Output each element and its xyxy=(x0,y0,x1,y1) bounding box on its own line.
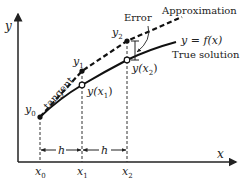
tick-x1: x1 xyxy=(77,165,88,180)
error-label: Error xyxy=(124,12,152,23)
point-y2 xyxy=(124,38,129,43)
label-y2: y2 xyxy=(111,26,123,41)
point-true-x1 xyxy=(79,82,85,88)
label-y-of-x2: y(x2) xyxy=(131,62,158,77)
true-equation-label: y = f(x) xyxy=(180,34,222,47)
step-h-label-2: h xyxy=(101,144,108,157)
y-axis-label: y xyxy=(4,19,12,33)
step-h-label-1: h xyxy=(58,144,65,157)
label-y1: y1 xyxy=(72,55,84,70)
point-y0 xyxy=(37,114,42,119)
tick-x2: x2 xyxy=(122,165,133,180)
x-axis-label: x xyxy=(217,147,224,161)
label-y-of-x1: y(x1) xyxy=(86,85,113,100)
approximation-line xyxy=(40,17,182,117)
tick-x0: x0 xyxy=(35,165,46,180)
error-pointer xyxy=(137,26,149,52)
point-true-x2 xyxy=(124,57,130,63)
approximation-label: Approximation xyxy=(161,5,237,16)
label-y0: y0 xyxy=(24,103,36,118)
euler-method-diagram: y x h h x0 x1 x2 y0 y1 y2 y(x1) y(x2) ta… xyxy=(0,0,242,180)
true-solution-label: True solution xyxy=(172,49,240,60)
true-solution-curve xyxy=(40,42,176,117)
